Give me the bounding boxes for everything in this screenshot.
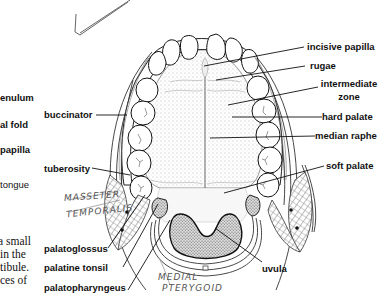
cutoff-paragraph-line-1: a small	[0, 235, 31, 248]
label-hard-palate: hard palate	[322, 112, 373, 122]
label-palatoglossus: palatoglossus	[44, 244, 108, 254]
cutoff-paragraph-line-4: ces of	[0, 274, 27, 287]
palatine-tonsil-right	[246, 195, 260, 216]
label-buccinator: buccinator	[44, 110, 93, 120]
label-median-raphe: median raphe	[315, 131, 377, 141]
label-rugae: rugae	[310, 61, 336, 71]
label-intermediate-zone-line2: zone	[318, 92, 379, 102]
palatine-tonsil-left	[152, 198, 168, 218]
cutoff-label-papilla: papilla	[0, 145, 30, 155]
pen-stroke-mark	[75, 0, 130, 35]
cutoff-paragraph-line-3: tibule.	[0, 261, 29, 274]
label-soft-palate: soft palate	[326, 161, 374, 171]
cutoff-label-frenulum: enulum	[0, 93, 34, 103]
handwritten-medial: MEDIAL	[158, 273, 198, 282]
cutoff-paragraph-line-2: in the	[0, 248, 26, 261]
label-intermediate-zone-line1: intermediate	[318, 79, 379, 89]
handwritten-pterygoid: PTERYGOID	[162, 284, 223, 293]
label-tuberosity: tuberosity	[44, 164, 90, 174]
palate-anatomy-diagram: enulum al fold papilla tongue a small in…	[0, 0, 379, 295]
label-palatine-tonsil: palatine tonsil	[44, 263, 108, 273]
label-uvula: uvula	[262, 264, 287, 274]
cutoff-label-tongue: tongue	[0, 180, 29, 190]
label-palatopharyngeus: palatopharyngeus	[44, 283, 126, 293]
cutoff-label-fold: al fold	[0, 120, 28, 130]
label-incisive-papilla: incisive papilla	[307, 42, 375, 52]
